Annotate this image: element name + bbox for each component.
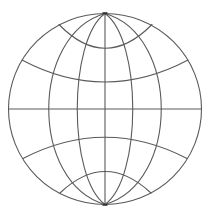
north-pole-marker [103, 13, 107, 15]
globe-illustration [0, 0, 212, 218]
globe-icon [0, 0, 212, 218]
south-pole-marker [103, 204, 107, 206]
